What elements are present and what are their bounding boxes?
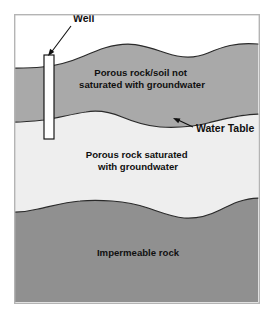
zone-label-impermeable-line1: Impermeable rock	[97, 247, 180, 258]
well-casing-rect[interactable]	[44, 55, 54, 139]
groundwater-diagram: Porous rock/soil not saturated with grou…	[0, 0, 274, 318]
cross-section-illustration: Porous rock/soil not saturated with grou…	[0, 0, 274, 318]
zone-label-impermeable: Impermeable rock	[97, 247, 180, 258]
zone-label-saturated: Porous rock saturated with groundwater	[86, 149, 191, 172]
zone-label-saturated-line1: Porous rock saturated	[86, 149, 188, 160]
zone-label-unsaturated: Porous rock/soil not saturated with grou…	[79, 67, 205, 90]
water-table-label: Water Table	[196, 122, 255, 134]
zone-label-unsaturated-line2: saturated with groundwater	[79, 79, 205, 90]
zone-label-saturated-line2: with groundwater	[97, 161, 178, 172]
zone-label-unsaturated-line1: Porous rock/soil not	[94, 67, 188, 78]
well-label: Well	[73, 12, 94, 24]
